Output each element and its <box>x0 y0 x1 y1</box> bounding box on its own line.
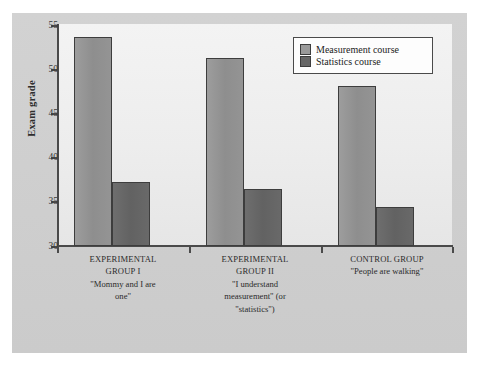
y-tick-label: 50 <box>24 65 58 75</box>
category-label-group2: EXPERIMENTAL GROUP II "I understand meas… <box>189 253 321 315</box>
y-tick-label: 45 <box>24 109 58 119</box>
category-quote-line2: measurement" (or <box>189 290 321 302</box>
category-quote-line2: one" <box>57 290 189 302</box>
category-title-line1: EXPERIMENTAL <box>57 253 189 265</box>
bar-group2-measurement <box>206 58 244 246</box>
category-quote-line1: "I understand <box>189 278 321 290</box>
legend-swatch-icon <box>300 44 311 55</box>
y-tick-label: 30 <box>24 242 58 252</box>
category-label-group3: CONTROL GROUP "People are walking" <box>321 253 453 278</box>
chart-figure: Exam grade 55 50 45 40 35 30 <box>12 13 467 353</box>
bar-group3-statistics <box>376 207 414 246</box>
legend-label: Statistics course <box>316 56 381 67</box>
bar-group2-statistics <box>244 189 282 246</box>
category-quote-line1: "Mommy and I are <box>57 278 189 290</box>
category-title-line2: GROUP II <box>189 265 321 277</box>
y-tick-label: 35 <box>24 197 58 207</box>
category-quote-line1: "People are walking" <box>321 265 453 277</box>
category-title-line2: GROUP I <box>57 265 189 277</box>
bar-group1-statistics <box>112 182 150 246</box>
category-title-line1: EXPERIMENTAL <box>189 253 321 265</box>
category-label-group1: EXPERIMENTAL GROUP I "Mommy and I are on… <box>57 253 189 303</box>
y-axis-line <box>57 24 59 247</box>
legend-label: Measurement course <box>316 44 399 55</box>
bar-group3-measurement <box>338 86 376 246</box>
y-tick-label: 40 <box>24 153 58 163</box>
legend-entry-measurement: Measurement course <box>300 44 426 55</box>
category-quote-line3: "statistics") <box>189 303 321 315</box>
y-tick-label: 55 <box>24 21 58 31</box>
category-title-line1: CONTROL GROUP <box>321 253 453 265</box>
bar-group1-measurement <box>74 37 112 247</box>
legend-entry-statistics: Statistics course <box>300 56 426 67</box>
legend-swatch-icon <box>300 56 311 67</box>
legend: Measurement course Statistics course <box>293 37 433 74</box>
